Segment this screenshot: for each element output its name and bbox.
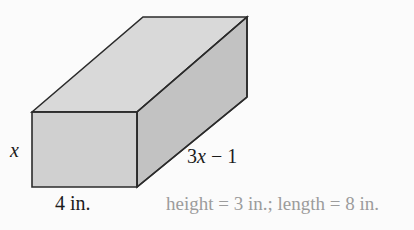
prism-front-face [32,112,137,187]
answer-text: height = 3 in.; length = 8 in. [166,194,379,213]
length-label: 3x − 1 [187,146,237,166]
rectangular-prism-figure: x 4 in. 3x − 1 height = 3 in.; length = … [0,0,414,230]
width-label: 4 in. [55,193,91,213]
height-label: x [10,140,19,160]
